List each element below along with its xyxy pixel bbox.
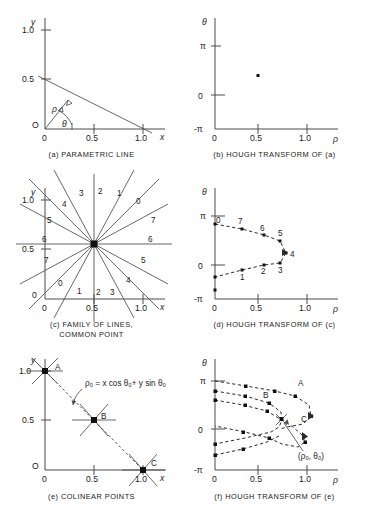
panel-d-xlabel: ρ — [332, 304, 338, 314]
panel-f-intersection-label: (ρ₀, θ₀) — [298, 452, 324, 461]
panel-e-label-a: A — [55, 363, 61, 372]
panel-b-xtick-05: 0.5 — [250, 133, 262, 143]
panel-a-xlabel: x — [159, 132, 165, 142]
panel-f-curve-b — [215, 391, 282, 444]
panel-c-caption: (c) FAMILY OF LINES, COMMON POINT — [0, 320, 183, 339]
panel-e-point-c — [140, 467, 146, 473]
panel-e-xtick-0: 0 — [42, 474, 47, 484]
panel-d-label-1: 1 — [240, 273, 245, 282]
panel-e-equation: ρ₀ = x cos θ₀+ y sin θ₀ — [85, 379, 166, 388]
panel-c-ytick-05: 0.5 — [22, 244, 34, 254]
panel-e-xlabel: x — [159, 473, 165, 483]
panel-d-ytick-negpi: -π — [194, 294, 203, 304]
panel-f-ylabel: θ — [202, 358, 207, 368]
panel-d-label-3: 3 — [278, 266, 283, 275]
panel-d-ytick-0: 0 — [198, 261, 203, 271]
panel-b-xlabel: ρ — [332, 134, 338, 144]
panel-f-label-b: B — [263, 391, 269, 400]
panel-b-xtick-1: 1.0 — [299, 133, 311, 143]
panel-c-label-2-bottom: 2 — [96, 288, 101, 297]
panel-e-point-b — [91, 417, 97, 423]
panel-b-caption: (b) HOUGH TRANSFORM OF (a) — [183, 150, 366, 160]
panel-a-xtick-0: 0 — [42, 133, 47, 143]
panel-c-label-0-top: 0 — [136, 197, 141, 206]
panel-c-label-1-bottom: 1 — [77, 287, 82, 296]
panel-a-ytick-1: 1.0 — [22, 25, 34, 35]
hough-transform-figure: y x 1.0 0.5 O 0 0.5 1.0 ρ θ (a) PARAMETR… — [0, 0, 366, 512]
panel-f-ytick-0: 0 — [198, 425, 203, 435]
panel-d-ytick-pi: π — [200, 211, 206, 221]
panel-f-label-c: C — [301, 415, 307, 424]
panel-f-curve-c — [215, 400, 305, 447]
panel-c-xtick-05: 0.5 — [86, 303, 98, 313]
panel-e-label-b: B — [101, 412, 107, 421]
panel-f-label-a: A — [298, 379, 304, 388]
panel-e-caption: (e) COLINEAR POINTS — [0, 492, 183, 502]
panel-c-common-point — [91, 241, 98, 248]
panel-c-label-3-top: 3 — [79, 189, 84, 198]
panel-b-ytick-negpi: -π — [194, 124, 203, 134]
panel-f-ytick-negpi: -π — [194, 465, 203, 475]
panel-c-label-3-bottom: 3 — [110, 288, 115, 297]
panel-f-xtick-1: 1.0 — [299, 474, 311, 484]
panel-a-caption: (a) PARAMETRIC LINE — [0, 150, 183, 160]
panel-d-caption: (d) HOUGH TRANSFORM OF (c) — [183, 320, 366, 330]
panel-c-label-5-top: 5 — [47, 216, 52, 225]
panel-d-label-6: 6 — [260, 224, 265, 233]
panel-e-ytick-1: 1.0 — [19, 366, 31, 376]
panel-e-point-a — [42, 368, 48, 374]
panel-a-xtick-05: 0.5 — [86, 133, 98, 143]
panel-c-label-4-bottom: 4 — [126, 276, 131, 285]
panel-e-ylabel: y — [30, 355, 36, 365]
panel-c-label-1-top: 1 — [117, 189, 122, 198]
panel-c-label-7-right: 7 — [151, 216, 156, 225]
panel-c-xlabel: x — [159, 302, 165, 312]
panel-b: θ ρ π 0 -π 0 0.5 1.0 (b) HOUGH TRANSFORM… — [183, 0, 366, 170]
panel-c-label-4-top: 4 — [62, 200, 67, 209]
panel-c-xtick-1: 1.0 — [135, 303, 147, 313]
panel-a: y x 1.0 0.5 O 0 0.5 1.0 ρ θ (a) PARAMETR… — [0, 0, 183, 170]
panel-f: A B C (ρ₀, θ₀) θ ρ π 0 -π 0 0.5 1.0 (f) … — [183, 341, 366, 511]
panel-c-xtick-0: 0 — [42, 303, 47, 313]
panel-d-label-0: 0 — [216, 216, 221, 225]
panel-a-ytick-05: 0.5 — [22, 74, 34, 84]
panel-f-xtick-0: 0 — [212, 474, 217, 484]
panel-c-label-6-left: 6 — [42, 235, 47, 244]
panel-b-xtick-0: 0 — [212, 133, 217, 143]
panel-c: y x 1.0 0.5 0 0 0.5 1.0 1 2 3 4 5 6 7 0 … — [0, 170, 183, 340]
panel-c-ytick-1: 1.0 — [22, 195, 34, 205]
panel-f-ytick-pi: π — [200, 376, 206, 386]
panel-c-label-6-right: 6 — [148, 235, 153, 244]
panel-c-label-0-bottom: 0 — [58, 279, 63, 288]
panel-c-label-7-left: 7 — [44, 256, 49, 265]
panel-d: 0 7 6 5 4 3 2 1 θ ρ π 0 -π 0 0.5 1.0 (d)… — [183, 170, 366, 340]
panel-e-xtick-05: 0.5 — [86, 474, 98, 484]
panel-d-ylabel: θ — [202, 187, 207, 197]
panel-b-point — [257, 74, 260, 77]
panel-e-ytick-05: 0.5 — [22, 415, 34, 425]
panel-f-xlabel: ρ — [332, 475, 338, 485]
panel-b-ylabel: θ — [202, 17, 207, 27]
panel-e: y x 1.0 0.5 O 0 0.5 1.0 A B C ρ₀ = x cos… — [0, 341, 183, 511]
panel-d-xtick-05: 0.5 — [250, 303, 262, 313]
panel-c-label-2-top: 2 — [98, 187, 103, 196]
panel-a-origin: O — [32, 120, 39, 130]
panel-a-xtick-1: 1.0 — [135, 133, 147, 143]
panel-d-curve — [215, 224, 286, 277]
panel-c-label-5-right: 5 — [141, 256, 146, 265]
panel-d-label-7: 7 — [238, 217, 243, 226]
panel-f-xtick-05: 0.5 — [250, 474, 262, 484]
panel-d-label-5: 5 — [278, 229, 283, 238]
panel-d-xtick-1: 1.0 — [299, 303, 311, 313]
panel-b-ytick-pi: π — [200, 41, 206, 51]
panel-b-ytick-0: 0 — [198, 91, 203, 101]
panel-a-theta-label: θ — [62, 119, 67, 129]
panel-e-label-c: C — [151, 459, 157, 468]
panel-f-intersection-point — [280, 417, 284, 421]
panel-e-xtick-1: 1.0 — [135, 474, 147, 484]
panel-d-label-4: 4 — [290, 250, 295, 259]
panel-f-caption: (f) HOUGH TRANSFORM OF (e) — [183, 492, 366, 502]
panel-d-xtick-0: 0 — [212, 303, 217, 313]
panel-d-label-2: 2 — [261, 267, 266, 276]
panel-c-origin: 0 — [32, 290, 37, 300]
